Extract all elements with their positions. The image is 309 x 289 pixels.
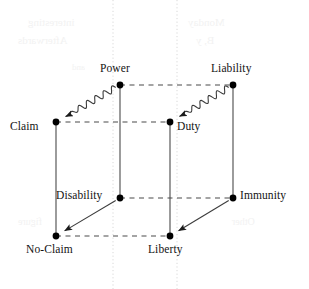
hohfeld-cube-figure: interestingAfterwardsMondayB, yandOtherf… bbox=[0, 0, 309, 289]
node-dot-duty[interactable] bbox=[167, 119, 174, 126]
node-label-liberty: Liberty bbox=[148, 243, 183, 256]
power-to-claim-wavy bbox=[66, 86, 116, 117]
node-label-claim: Claim bbox=[10, 120, 39, 133]
node-label-duty: Duty bbox=[177, 120, 200, 133]
liability-to-duty-wavy bbox=[179, 86, 228, 116]
node-label-no-claim: No-Claim bbox=[26, 243, 73, 256]
node-dot-immunity[interactable] bbox=[230, 195, 237, 202]
node-label-immunity: Immunity bbox=[240, 189, 286, 202]
node-dot-claim[interactable] bbox=[53, 119, 60, 126]
disability-to-no-claim-arrow bbox=[65, 201, 116, 231]
straight-implication-arrows bbox=[65, 201, 229, 231]
node-dot-liability[interactable] bbox=[230, 82, 237, 89]
node-dot-liberty[interactable] bbox=[167, 233, 174, 240]
wavy-correlative-arrows bbox=[66, 86, 229, 117]
node-dot-no-claim[interactable] bbox=[53, 233, 60, 240]
node-dot-power[interactable] bbox=[117, 82, 124, 89]
node-label-power: Power bbox=[100, 62, 130, 75]
node-label-disability: Disability bbox=[56, 189, 102, 202]
immunity-to-liberty-arrow bbox=[179, 201, 229, 231]
node-label-liability: Liability bbox=[211, 62, 252, 75]
node-dot-disability[interactable] bbox=[117, 195, 124, 202]
